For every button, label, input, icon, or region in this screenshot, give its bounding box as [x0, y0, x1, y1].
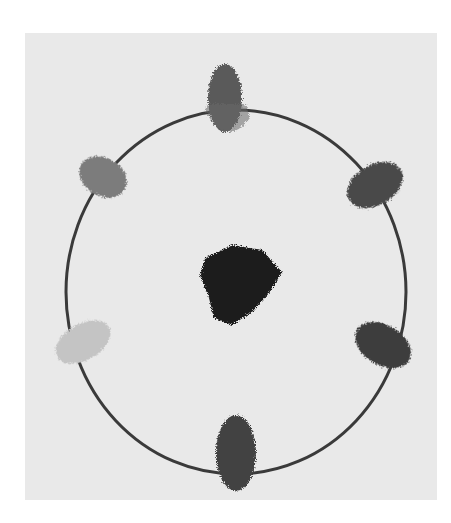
paint-daub-upper-left	[72, 148, 134, 206]
paint-daub-upper-right	[339, 153, 411, 218]
color-circle-figure	[0, 0, 451, 523]
paint-daub-lower-left	[48, 311, 118, 372]
top-daub-smudge	[205, 104, 250, 132]
paint-daub-lower-right	[347, 313, 419, 378]
paint-daub-bottom	[216, 415, 256, 491]
center-blob	[200, 245, 282, 325]
